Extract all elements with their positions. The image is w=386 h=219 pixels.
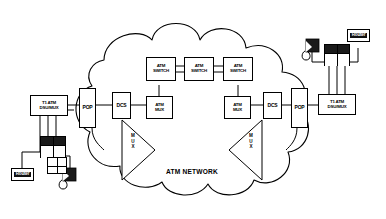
- pbx-body: [325, 54, 349, 66]
- pbx-keysystem-icon-left[interactable]: [40, 136, 66, 158]
- node-pop-left[interactable]: POP: [79, 88, 96, 128]
- router-icon-left[interactable]: Router: [11, 168, 34, 181]
- pbx-header-cell: [338, 45, 350, 53]
- node-label: POP: [83, 105, 93, 110]
- pbx-header: [325, 45, 349, 54]
- node-atm-mux-left[interactable]: ATM MUX: [146, 96, 173, 119]
- router-label: Router: [14, 172, 32, 178]
- router-icon-right[interactable]: Router: [347, 29, 370, 42]
- node-label: ATM MUX: [233, 103, 242, 112]
- node-label: ATM SWITCH: [191, 64, 207, 73]
- pbx-keysystem-icon-right[interactable]: [324, 44, 350, 66]
- grid-row: [48, 167, 66, 175]
- node-t1-atm-dsu-mux-right[interactable]: T1 ATM DSU/MUX: [318, 94, 356, 115]
- node-label: ATM MUX: [155, 103, 164, 112]
- grid-cell: [48, 158, 58, 166]
- grid-cell: [48, 167, 58, 175]
- mux-label-left: M U X: [128, 133, 138, 150]
- grid-row: [48, 158, 66, 167]
- grid-device-icon-left[interactable]: [47, 157, 67, 174]
- atm-network-diagram: T1 ATM DSU/MUX POP DCS M U X ATM SWITCH …: [0, 0, 386, 219]
- router-label: Router: [350, 33, 368, 39]
- node-atm-switch-2[interactable]: ATM SWITCH: [184, 57, 214, 81]
- pbx-header-cell: [41, 137, 54, 145]
- node-label: POP: [295, 105, 305, 110]
- pbx-body-cell: [325, 54, 338, 66]
- node-label: ATM SWITCH: [153, 64, 169, 73]
- pbx-header-cell: [325, 45, 338, 53]
- node-atm-switch-3[interactable]: ATM SWITCH: [223, 57, 253, 81]
- node-atm-mux-right[interactable]: ATM MUX: [224, 96, 251, 119]
- node-label: T1 ATM DSU/MUX: [40, 101, 59, 110]
- link-dsu-router-left: [22, 136, 40, 168]
- grid-cell: [58, 158, 67, 166]
- node-label: T1 ATM DSU/MUX: [328, 100, 347, 109]
- pbx-header: [41, 137, 65, 146]
- pbx-header-cell: [54, 137, 66, 145]
- grid-cell: [58, 167, 67, 175]
- telephone-handset-icon-right: [302, 39, 319, 60]
- node-dcs-right[interactable]: DCS: [263, 92, 282, 119]
- node-label: ATM SWITCH: [230, 64, 246, 73]
- node-dcs-left[interactable]: DCS: [112, 92, 131, 119]
- node-label: DCS: [117, 103, 127, 108]
- node-atm-switch-1[interactable]: ATM SWITCH: [146, 57, 176, 81]
- node-t1-atm-dsu-mux-left[interactable]: T1 ATM DSU/MUX: [30, 95, 68, 116]
- mux-label-right: M U X: [246, 133, 256, 150]
- atm-network-label: ATM NETWORK: [166, 168, 218, 175]
- node-pop-right[interactable]: POP: [291, 88, 308, 128]
- node-label: DCS: [268, 103, 278, 108]
- pbx-body-cell: [338, 54, 350, 66]
